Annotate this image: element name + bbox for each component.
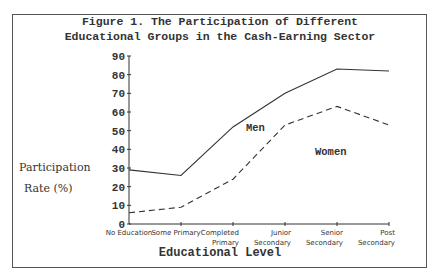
x-tick-label: Completed bbox=[201, 229, 239, 237]
series-label-men: Men bbox=[246, 122, 265, 134]
y-tick-label: 60 bbox=[112, 107, 125, 119]
series-label-women: Women bbox=[315, 146, 347, 158]
y-tick-label: 80 bbox=[112, 70, 125, 82]
y-tick-label: 90 bbox=[112, 51, 125, 63]
y-tick-label: 50 bbox=[112, 126, 125, 138]
x-tick-label: Junior bbox=[270, 229, 291, 237]
y-tick-label: 20 bbox=[112, 182, 125, 194]
y-tick-label: 70 bbox=[112, 88, 125, 100]
x-tick-label: Post bbox=[380, 229, 395, 237]
y-tick-label: 10 bbox=[112, 200, 125, 212]
x-axis-label: Educational Level bbox=[0, 246, 440, 260]
y-tick-label: 40 bbox=[112, 144, 125, 156]
line-chart: 0102030405060708090No EducationSome Prim… bbox=[0, 0, 440, 278]
x-tick-label: No Education bbox=[106, 229, 153, 237]
x-tick-label: Some Primary bbox=[151, 229, 200, 237]
y-tick-label: 30 bbox=[112, 163, 125, 175]
x-tick-label: Senior bbox=[321, 229, 343, 237]
